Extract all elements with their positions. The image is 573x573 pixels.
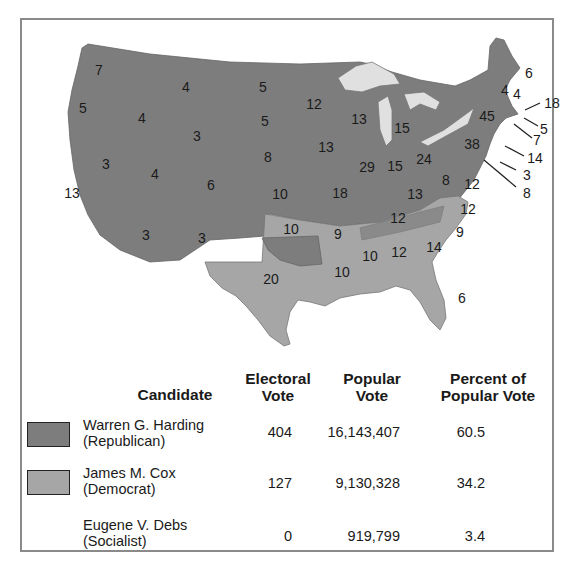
ev-label-ia: 13 (318, 139, 334, 155)
ev-label-mi: 15 (394, 120, 410, 136)
popular-cox: 9,130,328 (300, 475, 400, 491)
header-popular-vote: Popular Vote (322, 370, 422, 404)
ev-label-ca: 13 (64, 185, 80, 201)
ev-label-ut: 4 (151, 166, 159, 182)
ev-label-ks: 10 (272, 186, 288, 202)
ev-label-nj: 14 (527, 150, 543, 166)
ev-label-va: 12 (464, 176, 480, 192)
ev-label-mt: 4 (182, 79, 190, 95)
electoral-debs: 0 (232, 528, 292, 544)
ev-label-wy: 3 (193, 128, 201, 144)
ev-label-nm: 3 (198, 230, 206, 246)
ev-label-sc: 9 (456, 224, 464, 240)
candidate-cox: James M. Cox (Democrat) (83, 465, 176, 497)
ev-label-wv: 8 (442, 172, 450, 188)
ev-label-mo: 18 (332, 185, 348, 201)
ev-label-md: 8 (523, 185, 531, 201)
ev-label-oh: 24 (416, 151, 432, 167)
ev-label-or: 5 (79, 100, 87, 116)
ev-label-me: 6 (525, 65, 533, 81)
swatch-democrat (27, 470, 70, 495)
candidate-harding: Warren G. Harding (Republican) (83, 417, 204, 449)
header-electoral-vote: Electoral Vote (232, 370, 324, 404)
ev-label-de: 3 (523, 167, 531, 183)
ev-label-ma: 18 (544, 95, 560, 111)
ev-label-vt: 4 (501, 82, 509, 98)
ev-label-nd: 5 (259, 79, 267, 95)
ev-label-mn: 12 (306, 96, 322, 112)
header-candidate: Candidate (115, 386, 235, 403)
ev-label-ne: 8 (264, 149, 272, 165)
ev-label-nv: 3 (102, 156, 110, 172)
ev-label-tn: 12 (390, 210, 406, 226)
ev-label-tx: 20 (263, 271, 279, 287)
popular-debs: 919,799 (300, 528, 400, 544)
ev-label-ms: 10 (362, 248, 378, 264)
electoral-harding: 404 (232, 424, 292, 440)
ev-label-ga: 14 (426, 239, 442, 255)
ev-label-ky: 13 (407, 186, 423, 202)
ev-label-wa: 7 (95, 62, 103, 78)
ev-label-fl: 6 (458, 290, 466, 306)
header-percent-popular-vote: Percent of Popular Vote (424, 370, 552, 404)
ev-label-in: 15 (387, 158, 403, 174)
popular-harding: 16,143,407 (300, 424, 400, 440)
ev-label-id: 4 (138, 110, 146, 126)
percent-harding: 60.5 (440, 424, 485, 440)
ev-label-al: 12 (391, 244, 407, 260)
ev-label-nh: 4 (513, 86, 521, 102)
ev-label-ar: 9 (334, 226, 342, 242)
swatch-republican (27, 422, 70, 447)
percent-cox: 34.2 (440, 475, 485, 491)
ev-label-pa: 38 (464, 136, 480, 152)
ev-label-ok: 10 (283, 221, 299, 237)
ev-label-ri: 5 (540, 121, 548, 137)
candidate-debs: Eugene V. Debs (Socialist) (83, 517, 187, 549)
ev-label-sd: 5 (261, 113, 269, 129)
ev-label-la: 10 (334, 264, 350, 280)
ev-label-wi: 13 (351, 111, 367, 127)
ev-label-co: 6 (207, 177, 215, 193)
ev-label-ny: 45 (479, 108, 495, 124)
ev-label-il: 29 (359, 159, 375, 175)
ev-label-ct: 7 (533, 132, 541, 148)
ev-label-nc: 12 (460, 201, 476, 217)
electoral-cox: 127 (232, 475, 292, 491)
ev-label-az: 3 (142, 227, 150, 243)
percent-debs: 3.4 (440, 528, 485, 544)
